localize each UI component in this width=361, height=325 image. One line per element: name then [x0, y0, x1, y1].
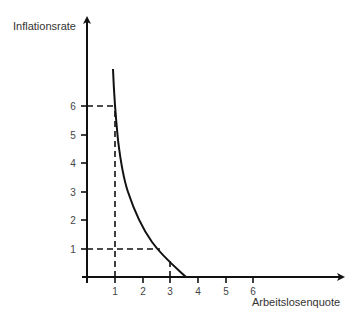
x-tick-label: 5 — [223, 286, 229, 297]
y-axis-title: Inflationsrate — [13, 20, 76, 32]
y-tick-label: 2 — [70, 215, 76, 226]
phillips-curve-line — [113, 69, 186, 277]
y-tick-label: 3 — [70, 187, 76, 198]
y-tick-labels: 1 2 3 4 5 6 — [70, 101, 76, 255]
y-tick-label: 6 — [70, 101, 76, 112]
x-tick-labels: 1 2 3 4 5 6 — [112, 286, 256, 297]
x-tick-label: 4 — [195, 286, 201, 297]
x-axis-title: Arbeitslosenquote — [252, 296, 340, 308]
x-tick-label: 1 — [112, 286, 118, 297]
phillips-curve-chart: 1 2 3 4 5 6 1 2 3 4 5 6 Inflationsrate A… — [0, 0, 361, 325]
x-tick-label: 3 — [167, 286, 173, 297]
y-tick-label: 4 — [70, 158, 76, 169]
y-tick-label: 1 — [70, 244, 76, 255]
x-tick-label: 2 — [140, 286, 146, 297]
y-tick-label: 5 — [70, 130, 76, 141]
